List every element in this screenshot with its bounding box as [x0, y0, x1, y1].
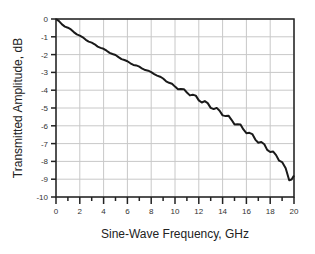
y-tick-label: -6 [41, 122, 49, 131]
y-tick-label: -1 [41, 33, 49, 42]
y-axis-ticks: 0-1-2-3-4-5-6-7-8-9-10 [36, 15, 56, 202]
y-tick-label: -7 [41, 140, 49, 149]
chart: 0-1-2-3-4-5-6-7-8-9-10 02468101214161820… [0, 0, 315, 254]
x-axis-label: Sine-Wave Frequency, GHz [101, 227, 249, 241]
x-tick-label: 20 [290, 207, 299, 216]
y-tick-label: -5 [41, 104, 49, 113]
x-tick-label: 2 [78, 207, 83, 216]
y-tick-label: -10 [36, 193, 48, 202]
y-axis-label: Transmitted Amplitude, dB [11, 38, 25, 178]
x-tick-label: 16 [242, 207, 251, 216]
x-tick-label: 10 [171, 207, 180, 216]
y-tick-label: -2 [41, 51, 49, 60]
x-tick-label: 4 [101, 207, 106, 216]
x-tick-label: 6 [125, 207, 130, 216]
y-tick-label: -4 [41, 86, 49, 95]
x-tick-label: 8 [149, 207, 154, 216]
x-tick-label: 0 [54, 207, 59, 216]
y-tick-label: -3 [41, 68, 49, 77]
x-axis-ticks: 02468101214161820 [54, 197, 299, 216]
y-tick-label: -9 [41, 175, 49, 184]
x-tick-label: 18 [266, 207, 275, 216]
y-tick-label: -8 [41, 157, 49, 166]
y-tick-label: 0 [44, 15, 49, 24]
x-tick-label: 12 [194, 207, 203, 216]
grid-lines [56, 19, 294, 197]
x-tick-label: 14 [218, 207, 227, 216]
